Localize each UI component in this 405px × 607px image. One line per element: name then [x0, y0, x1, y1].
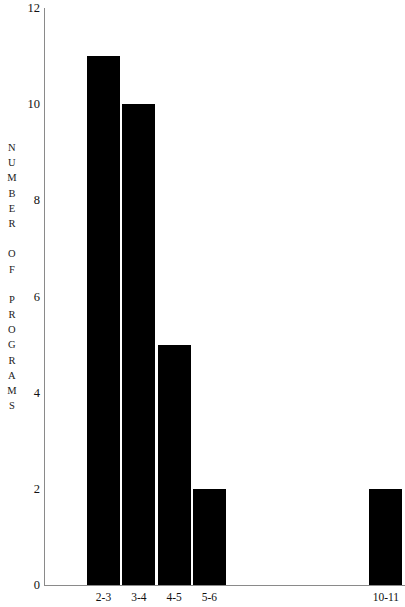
y-axis-tick-label: 8	[6, 193, 40, 207]
bar	[193, 489, 226, 585]
x-axis-line	[44, 585, 405, 586]
plot-area	[45, 8, 405, 585]
x-axis-tick-label: 10-11	[356, 590, 405, 604]
bar	[369, 489, 402, 585]
y-axis-tick-label: 12	[6, 1, 40, 15]
bar	[158, 345, 191, 585]
histogram-chart: N U M B E R O F P R O G R A M S 12108642…	[0, 0, 405, 607]
y-axis-tick-label: 10	[6, 97, 40, 111]
x-axis-tick-label: 5-6	[179, 590, 239, 604]
y-axis-tick-labels: 121086420	[0, 0, 40, 607]
y-axis-tick-label: 4	[6, 386, 40, 400]
y-axis-tick-label: 0	[6, 578, 40, 592]
bar	[122, 104, 155, 585]
y-axis-tick-label: 6	[6, 290, 40, 304]
y-axis-tick-label: 2	[6, 482, 40, 496]
bar	[87, 56, 120, 585]
